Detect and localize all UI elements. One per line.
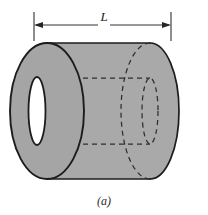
- dimension-annotation: L: [34, 9, 171, 41]
- near-end-face: [10, 43, 84, 179]
- near-end-outer-ellipse: [10, 43, 84, 179]
- near-end-bore-hole: [29, 77, 46, 145]
- arrowhead-left-icon: [34, 22, 43, 28]
- figure-container: L: [0, 0, 208, 215]
- arrowhead-right-icon: [162, 22, 171, 28]
- figure-caption: (a): [97, 194, 111, 208]
- dimension-label-L: L: [99, 9, 107, 24]
- hollow-cylinder-diagram: L: [0, 0, 208, 215]
